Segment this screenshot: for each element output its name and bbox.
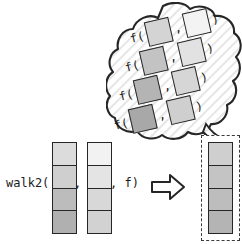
cloud-row-left-cell (144, 17, 174, 47)
cloud-row-close: ) (205, 41, 215, 54)
strip-cell (88, 189, 111, 212)
expression-tail: , f) (110, 177, 139, 189)
cloud-row-call: f( (118, 87, 135, 102)
strip-cell (209, 143, 232, 166)
strip-cell (53, 189, 76, 212)
input-strip-b (87, 142, 112, 234)
strip-cell (88, 211, 111, 233)
cloud-row-close: ) (210, 12, 220, 25)
cloud-row-left-cell (139, 46, 169, 76)
cloud-row-close: ) (199, 70, 209, 83)
cloud-contents: f( , ) f( , ) f( , ) f( , ) (106, 2, 242, 150)
cloud-row-right-cell (170, 66, 200, 96)
strip-cell (53, 166, 76, 189)
cloud-row-right-cell (176, 37, 206, 67)
strip-cell (88, 166, 111, 189)
cloud-row-separator: , (173, 21, 183, 34)
cloud-row-right-cell (181, 8, 211, 38)
result-strip (208, 142, 233, 234)
strip-cell (209, 211, 232, 233)
cloud-row-separator: , (168, 50, 178, 63)
cloud-row-left-cell (133, 75, 163, 105)
figure-canvas: f( , ) f( , ) f( , ) f( , ) wa (0, 0, 242, 244)
strip-cell (53, 211, 76, 233)
strip-cell (53, 143, 76, 166)
strip-cell (209, 166, 232, 189)
expression-head: walk2( (6, 177, 49, 189)
input-strip-a (52, 142, 77, 234)
cloud-row-separator: , (162, 79, 172, 92)
cloud-row-call: f( (113, 116, 130, 131)
cloud-row-separator: , (157, 108, 167, 121)
strip-cell (88, 143, 111, 166)
cloud-row-call: f( (124, 58, 141, 73)
strip-cell (209, 189, 232, 212)
cloud-row-call: f( (129, 29, 146, 44)
right-arrow-icon (149, 168, 187, 206)
cloud-row-right-cell (165, 95, 195, 125)
cloud-row-close: ) (194, 99, 204, 112)
cloud-row-left-cell (128, 104, 158, 134)
